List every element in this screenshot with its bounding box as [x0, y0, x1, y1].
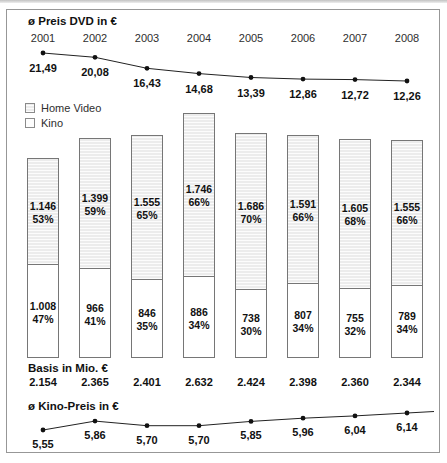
home-video-label: 1.55566%: [392, 201, 422, 226]
kino-label: 78934%: [392, 310, 422, 335]
basis-value: 2.154: [29, 376, 57, 388]
stacked-bar: 1.55565%84635%: [131, 135, 163, 358]
home-video-label: 1.59166%: [288, 198, 318, 223]
kino-price-point: [197, 423, 202, 428]
kino-label: 96641%: [80, 302, 110, 327]
kino-label-line: 41%: [80, 315, 110, 328]
dvd-price-value: 16,43: [133, 77, 161, 89]
kino-price-value: 5,70: [188, 434, 209, 446]
home-video-label-line: 1.591: [288, 198, 318, 211]
kino-price-point: [353, 414, 358, 419]
basis-value: 2.360: [341, 376, 369, 388]
dvd-price-point: [249, 75, 254, 80]
kino-label-line: 738: [236, 312, 266, 325]
home-video-label-line: 66%: [288, 211, 318, 224]
dvd-price-value: 12,26: [393, 90, 421, 102]
kino-swatch-icon: [25, 118, 35, 128]
kino-label: 73830%: [236, 312, 266, 337]
legend-item-home-video: Home Video: [25, 101, 101, 114]
kino-price-point: [41, 428, 46, 433]
home-video-label-line: 1.399: [80, 192, 110, 205]
home-video-label: 1.74666%: [184, 183, 214, 208]
stacked-bar: 1.55566%78934%: [391, 140, 423, 358]
home-video-label-line: 1.605: [340, 202, 370, 215]
dvd-price-value: 21,49: [29, 62, 57, 74]
home-video-label-line: 1.555: [132, 196, 162, 209]
dvd-price-point: [197, 71, 202, 76]
kino-price-value: 6,04: [344, 424, 365, 436]
stacked-bar: 1.39959%96641%: [79, 138, 111, 358]
stacked-bar: 1.74666%88634%: [183, 113, 215, 358]
home-video-label-line: 1.146: [28, 200, 58, 213]
home-video-label: 1.39959%: [80, 192, 110, 217]
dvd-price-value: 12,86: [289, 88, 317, 100]
kino-price-line: [43, 412, 434, 431]
legend-item-kino: Kino: [25, 116, 101, 129]
basis-value: 2.401: [133, 376, 161, 388]
home-video-swatch-icon: [25, 103, 35, 113]
kino-price-value: 5,85: [240, 429, 261, 441]
scanned-chart-page: ø Preis DVD in € 20012002200320042005200…: [0, 0, 447, 463]
stacked-bar: 1.68670%73830%: [235, 133, 267, 358]
kino-label-line: 32%: [340, 325, 370, 338]
kino-price-point: [145, 423, 150, 428]
kino-price-title: ø Kino-Preis in €: [28, 400, 119, 412]
basis-value: 2.424: [237, 376, 265, 388]
kino-price-point: [93, 419, 98, 424]
dvd-price-value: 13,39: [237, 87, 265, 99]
kino-price-value: 5,70: [136, 434, 157, 446]
basis-value: 2.632: [185, 376, 213, 388]
home-video-label-line: 70%: [236, 213, 266, 226]
kino-label-line: 34%: [184, 319, 214, 332]
home-video-label-line: 1.746: [184, 183, 214, 196]
kino-label-line: 966: [80, 302, 110, 315]
kino-label-line: 35%: [132, 320, 162, 333]
kino-label-line: 1.008: [28, 300, 58, 313]
kino-price-value: 5,96: [292, 426, 313, 438]
kino-label: 80734%: [288, 309, 318, 334]
kino-label-line: 30%: [236, 325, 266, 338]
dvd-price-point: [301, 77, 306, 82]
stacked-bar: 1.60568%75532%: [339, 139, 371, 358]
line-charts-overlay: [0, 0, 447, 463]
kino-label: 84635%: [132, 307, 162, 332]
dvd-price-value: 12,72: [341, 89, 369, 101]
home-video-label-line: 1.686: [236, 200, 266, 213]
basis-value: 2.365: [81, 376, 109, 388]
dvd-price-point: [93, 55, 98, 60]
kino-label: 88634%: [184, 306, 214, 331]
legend-label-home-video: Home Video: [41, 102, 101, 114]
home-video-label: 1.68670%: [236, 200, 266, 225]
home-video-label-line: 1.555: [392, 201, 422, 214]
home-video-label: 1.60568%: [340, 202, 370, 227]
kino-price-point: [405, 411, 410, 416]
legend: Home Video Kino: [25, 101, 101, 131]
kino-label-line: 846: [132, 307, 162, 320]
kino-label-line: 34%: [392, 323, 422, 336]
dvd-price-value: 20,08: [81, 66, 109, 78]
kino-label-line: 886: [184, 306, 214, 319]
basis-title: Basis in Mio. €: [28, 362, 108, 374]
dvd-price-value: 14,68: [185, 83, 213, 95]
kino-label-line: 755: [340, 312, 370, 325]
home-video-label-line: 53%: [28, 213, 58, 226]
kino-price-point: [249, 419, 254, 424]
basis-value: 2.398: [289, 376, 317, 388]
home-video-label-line: 59%: [80, 205, 110, 218]
home-video-label: 1.55565%: [132, 196, 162, 221]
home-video-label-line: 66%: [184, 196, 214, 209]
stacked-bar: 1.59166%80734%: [287, 135, 319, 358]
dvd-price-point: [145, 66, 150, 71]
kino-label: 1.00847%: [28, 300, 58, 325]
dvd-price-point: [41, 51, 46, 56]
basis-value: 2.344: [393, 376, 421, 388]
kino-price-value: 5,55: [32, 438, 53, 450]
kino-label-line: 47%: [28, 313, 58, 326]
kino-price-value: 6,14: [396, 421, 417, 433]
kino-price-point: [301, 416, 306, 421]
kino-label-line: 789: [392, 310, 422, 323]
kino-label-line: 34%: [288, 322, 318, 335]
home-video-label-line: 65%: [132, 209, 162, 222]
stacked-bar: 1.14653%1.00847%: [27, 158, 59, 358]
kino-label: 75532%: [340, 312, 370, 337]
